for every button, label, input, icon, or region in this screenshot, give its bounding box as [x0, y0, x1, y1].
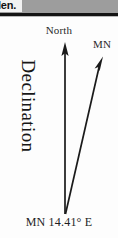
- declination-title: Declination: [17, 51, 39, 161]
- north-label-wrap: North: [0, 24, 118, 36]
- declination-diagram: len. North MN Declination MN 14.41° E: [0, 0, 118, 238]
- magnetic-north-arrow: [66, 57, 104, 215]
- declination-caption: MN 14.41° E: [0, 215, 118, 230]
- north-label: North: [46, 24, 73, 36]
- magnetic-north-arrow-shaft: [66, 67, 100, 215]
- header-divider-rule-shadow: [0, 16, 118, 17]
- true-north-arrow-head: [61, 42, 68, 56]
- magnetic-north-arrow-head: [95, 57, 103, 72]
- scanned-header-partial-text: len.: [0, 0, 22, 12]
- magnetic-north-label: MN: [93, 38, 111, 50]
- true-north-arrow: [61, 42, 68, 214]
